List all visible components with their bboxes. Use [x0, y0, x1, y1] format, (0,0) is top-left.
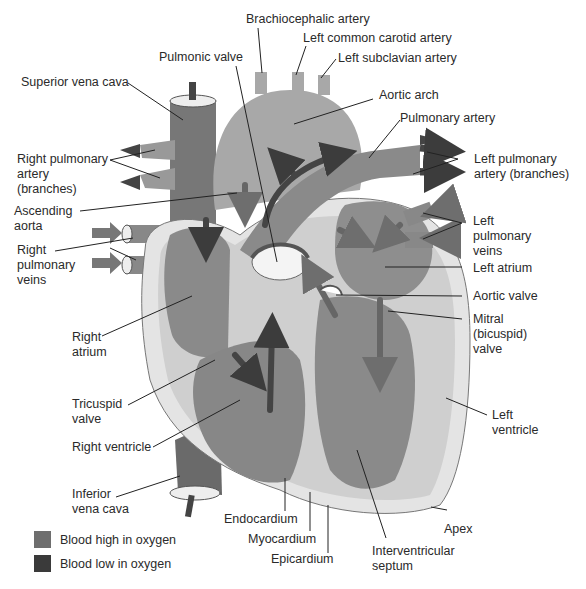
label-left-pulmonary-veins: Left pulmonary veins [473, 214, 531, 259]
label-inferior-vena-cava: Inferior vena cava [72, 487, 129, 517]
label-aortic-valve: Aortic valve [473, 289, 538, 304]
label-myocardium: Myocardium [248, 532, 316, 547]
label-left-ventricle: Left ventricle [492, 408, 539, 438]
pulmonic-valve [252, 244, 308, 280]
label-brachiocephalic-artery: Brachiocephalic artery [246, 12, 370, 27]
label-left-pulmonary-artery: Left pulmonary artery (branches) [474, 152, 569, 182]
label-mitral-valve: Mitral (bicuspid) valve [473, 312, 527, 357]
left-ventricle-chamber [315, 296, 415, 488]
label-aortic-arch: Aortic arch [379, 88, 439, 103]
label-right-ventricle: Right ventricle [72, 440, 151, 455]
right-atrium-chamber [164, 228, 230, 357]
label-ascending-aorta: Ascending aorta [14, 204, 72, 234]
label-left-subclavian-artery: Left subclavian artery [338, 51, 457, 66]
label-right-pulmonary-artery: Right pulmonary artery (branches) [17, 152, 108, 197]
label-tricuspid-valve: Tricuspid valve [72, 397, 122, 427]
label-epicardium: Epicardium [271, 552, 334, 567]
superior-vena-cava [170, 82, 216, 230]
legend-swatch-low-oxygen [34, 555, 51, 572]
label-right-pulmonary-veins: Right pulmonary veins [17, 243, 75, 288]
label-right-atrium: Right atrium [72, 330, 107, 360]
label-endocardium: Endocardium [224, 512, 298, 527]
label-apex: Apex [444, 522, 473, 537]
label-pulmonary-artery: Pulmonary artery [400, 111, 495, 126]
right-pulmonary-artery [120, 140, 175, 190]
label-pulmonic-valve: Pulmonic valve [159, 50, 243, 65]
legend-label-low-oxygen: Blood low in oxygen [60, 557, 171, 572]
label-left-common-carotid-artery: Left common carotid artery [303, 31, 452, 46]
legend-label-high-oxygen: Blood high in oxygen [60, 533, 176, 548]
label-superior-vena-cava: Superior vena cava [21, 75, 129, 90]
label-interventricular-septum: Interventricular septum [372, 544, 455, 574]
legend-swatch-high-oxygen [34, 531, 51, 548]
label-left-atrium: Left atrium [473, 261, 532, 276]
